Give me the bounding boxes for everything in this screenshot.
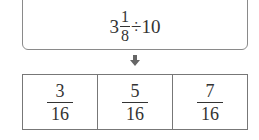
denominator: 8 xyxy=(120,26,130,44)
division-expression: 3 1 8 ÷ 10 xyxy=(23,9,247,44)
denominator: 16 xyxy=(122,102,148,123)
fraction: 3 16 xyxy=(47,82,73,123)
denominator: 16 xyxy=(197,102,223,123)
fraction: 1 8 xyxy=(120,9,130,44)
expression-box: 3 1 8 ÷ 10 xyxy=(22,0,248,50)
down-arrow-icon xyxy=(129,55,141,67)
fraction: 5 16 xyxy=(122,82,148,123)
answer-choices-table: 3 16 5 16 7 16 xyxy=(22,74,248,130)
choice-cell[interactable]: 3 16 xyxy=(23,75,98,130)
denominator: 16 xyxy=(47,102,73,123)
whole-number: 3 xyxy=(110,16,120,38)
numerator: 7 xyxy=(202,82,219,102)
choice-cell[interactable]: 5 16 xyxy=(98,75,173,130)
numerator: 1 xyxy=(120,9,130,26)
numerator: 3 xyxy=(52,82,69,102)
choice-cell[interactable]: 7 16 xyxy=(173,75,248,130)
divisor: 10 xyxy=(141,16,160,38)
numerator: 5 xyxy=(127,82,144,102)
divide-operator: ÷ xyxy=(131,16,141,38)
fraction: 7 16 xyxy=(197,82,223,123)
